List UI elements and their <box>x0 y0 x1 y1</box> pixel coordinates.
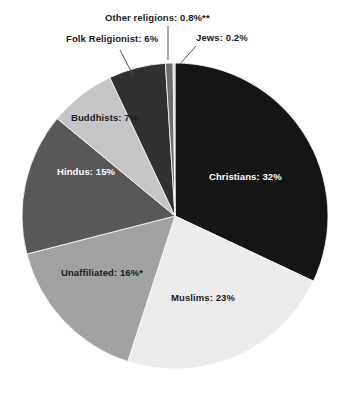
slice-label-muslims: Muslims: 23% <box>171 293 235 303</box>
slice-label-christians: Christians: 32% <box>209 172 282 182</box>
slice-label-buddhists: Buddhists: 7% <box>71 113 138 123</box>
pie-chart-canvas <box>0 0 350 393</box>
slice-label-folk-religionist: Folk Religionist: 6% <box>66 34 158 44</box>
slice-label-jews: Jews: 0.2% <box>196 33 248 43</box>
slice-label-unaffiliated: Unaffiliated: 16%* <box>61 268 143 278</box>
leader-line-jews <box>180 46 196 64</box>
pie-chart: Other religions: 0.8%** Folk Religionist… <box>0 0 350 393</box>
slice-label-other-religions: Other religions: 0.8%** <box>105 13 210 23</box>
slice-label-hindus: Hindus: 15% <box>57 167 115 177</box>
pie-slice-group <box>22 63 328 369</box>
